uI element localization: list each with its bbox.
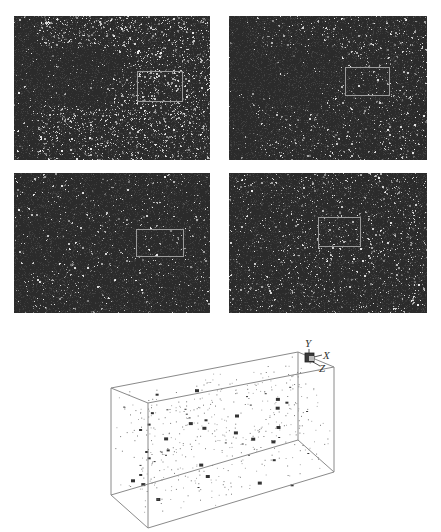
region-of-interest-box xyxy=(318,217,361,247)
region-of-interest-box xyxy=(345,67,390,96)
bounding-box xyxy=(111,352,334,528)
box-back-face xyxy=(111,352,298,495)
image-panel-bottom-left xyxy=(14,173,210,313)
image-panel-top-left xyxy=(14,16,210,160)
axis-label-x: X xyxy=(322,349,331,361)
region-of-interest-box xyxy=(136,229,184,257)
image-panel-bottom-right xyxy=(229,173,427,313)
region-of-interest-box xyxy=(137,71,183,102)
image-panel-top-right xyxy=(229,16,427,160)
axis-label-y: Y xyxy=(305,337,313,349)
particle-image xyxy=(229,16,427,160)
volume-render-3d: Y X Z xyxy=(0,320,441,532)
cropped-caption xyxy=(2,0,152,6)
axis-label-z: Z xyxy=(319,362,326,374)
